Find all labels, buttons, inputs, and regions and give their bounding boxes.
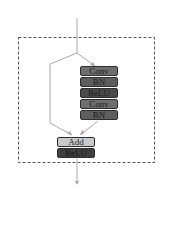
relu-layer-1: ReLU [80,88,118,98]
conv-label: Conv [89,99,109,109]
bn-label: BN [93,77,106,87]
conv-layer-1: Conv [80,66,118,76]
skip-connection [50,53,77,135]
bn-layer-1: BN [80,77,118,87]
add-label: Add [68,137,84,147]
conv-layer-2: Conv [80,99,118,109]
arrowhead-icon [75,181,79,185]
bn-layer-2: BN [80,110,118,120]
relu-label: ReLU [65,148,87,158]
conv-label: Conv [89,66,109,76]
relu-label: ReLU [88,88,110,98]
arrowhead-icon [80,130,85,135]
relu-output: ReLU [57,148,95,158]
add-node: Add [57,137,95,147]
bn-label: BN [93,110,106,120]
